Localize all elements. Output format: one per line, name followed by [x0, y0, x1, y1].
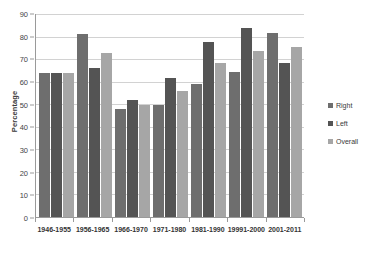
y-axis-tick-mark [30, 14, 34, 15]
legend: RightLeftOverall [328, 101, 371, 155]
x-axis-tick-marks [35, 218, 304, 224]
bar-group [190, 14, 228, 217]
y-axis-tick-label: 40 [20, 123, 28, 132]
bar-group [75, 14, 113, 217]
bar-overall [139, 105, 150, 217]
y-axis-tick-mark [30, 82, 34, 83]
bar-overall [63, 73, 74, 217]
x-axis-tick-label: 1966-1970 [112, 226, 150, 233]
legend-item-left: Left [328, 119, 371, 127]
x-axis-labels: 1946-19551956-19651966-19701971-19801981… [35, 226, 304, 233]
bar-chart: Percentage 0102030405060708090 1946-1955… [0, 0, 371, 253]
y-axis-tick-mark [30, 172, 34, 173]
y-axis-tick-mark [30, 59, 34, 60]
bar-left [241, 28, 252, 217]
y-axis-tick-label: 80 [20, 32, 28, 41]
bar-overall [291, 47, 302, 217]
bar-right [191, 84, 202, 217]
plot-area [35, 14, 304, 218]
y-axis-tick-mark [30, 195, 34, 196]
x-axis-tick-mark [150, 218, 151, 222]
y-axis-tick-label: 30 [20, 146, 28, 155]
bar-left [279, 63, 290, 218]
x-axis-tick-label: 1981-1990 [189, 226, 227, 233]
x-axis-tick-label: 1971-1980 [150, 226, 188, 233]
bar-right [153, 105, 164, 217]
y-axis-tick-mark [30, 36, 34, 37]
bar-right [229, 72, 240, 217]
legend-label: Right [336, 102, 352, 109]
bar-overall [177, 91, 188, 217]
bar-right [77, 34, 88, 217]
y-axis-tick-label: 20 [20, 168, 28, 177]
bar-group [151, 14, 189, 217]
bar-left [89, 68, 100, 217]
x-axis-tick-label: 1956-1965 [73, 226, 111, 233]
bar-group [266, 14, 304, 217]
x-axis-tick-mark [73, 218, 74, 222]
x-axis-tick-label: 19991-2000 [227, 226, 265, 233]
bar-left [51, 73, 62, 217]
x-axis-tick-mark [304, 218, 305, 222]
bar-overall [253, 51, 264, 217]
y-axis-ticks: 0102030405060708090 [0, 14, 34, 218]
bar-overall [101, 53, 112, 217]
y-axis-tick-mark [30, 218, 34, 219]
legend-swatch-icon [328, 103, 333, 108]
y-axis-tick-label: 50 [20, 100, 28, 109]
x-axis-tick-mark [266, 218, 267, 222]
legend-swatch-icon [328, 139, 333, 144]
x-axis-tick-mark [227, 218, 228, 222]
bar-right [39, 73, 50, 217]
bar-group [113, 14, 151, 217]
bar-overall [215, 63, 226, 217]
bar-left [165, 78, 176, 217]
x-axis-tick-mark [189, 218, 190, 222]
y-axis-tick-label: 60 [20, 78, 28, 87]
bar-group [37, 14, 75, 217]
y-axis-tick-label: 70 [20, 55, 28, 64]
bar-right [267, 33, 278, 217]
y-axis-tick-label: 90 [20, 10, 28, 19]
bar-left [127, 100, 138, 217]
y-axis-tick-label: 0 [24, 214, 28, 223]
bar-right [115, 109, 126, 217]
x-axis-tick-mark [112, 218, 113, 222]
legend-label: Overall [336, 138, 358, 145]
y-axis-tick-mark [30, 104, 34, 105]
legend-item-right: Right [328, 101, 371, 109]
legend-label: Left [336, 120, 348, 127]
bar-left [203, 42, 214, 217]
x-axis-tick-label: 2001-2011 [266, 226, 304, 233]
bar-groups [37, 14, 304, 217]
legend-item-overall: Overall [328, 137, 371, 145]
x-axis-tick-label: 1946-1955 [35, 226, 73, 233]
legend-swatch-icon [328, 121, 333, 126]
bar-group [228, 14, 266, 217]
y-axis-tick-label: 10 [20, 191, 28, 200]
x-axis-tick-mark [35, 218, 36, 222]
y-axis-tick-mark [30, 150, 34, 151]
y-axis-tick-mark [30, 127, 34, 128]
